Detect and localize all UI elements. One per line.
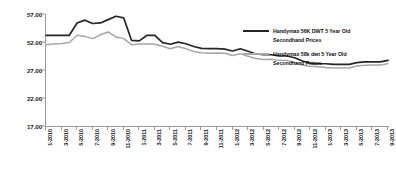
x-axis-tick-mark	[123, 127, 124, 130]
x-axis-tick-mark	[325, 127, 326, 130]
x-axis-tick-mark	[185, 127, 186, 130]
x-axis-tick-mark	[294, 127, 295, 130]
x-axis-tick-label: 1-2010	[47, 129, 53, 146]
x-axis-tick-mark	[92, 127, 93, 130]
x-axis-tick-mark	[107, 127, 108, 130]
x-axis-tick-mark	[387, 127, 388, 130]
x-axis-labels: 1-20103-20105-20107-20109-201011-20101-2…	[45, 127, 389, 170]
legend-label-line1: Handymax 58k dwt 5 Year Old	[273, 51, 347, 57]
x-axis-tick-mark	[309, 127, 310, 130]
x-axis-tick-label: 7-2011	[187, 129, 193, 146]
x-axis-tick-label: 3-2013	[343, 129, 349, 146]
x-axis-tick-mark	[340, 127, 341, 130]
legend-label-series-0: Handymax 56K DWT 5 Year Old Secondhand P…	[273, 27, 350, 44]
x-axis-tick-mark	[356, 127, 357, 130]
x-axis-tick-label: 9-2012	[296, 129, 302, 146]
x-axis-tick-label: 7-2013	[374, 129, 380, 146]
x-axis-tick-label: 11-2011	[218, 129, 224, 148]
x-axis-tick-mark	[169, 127, 170, 130]
x-axis-tick-label: 3-2011	[156, 129, 162, 146]
x-axis-tick-mark	[154, 127, 155, 130]
x-axis-tick-label: 1-2012	[234, 129, 240, 146]
y-axis-tick-label: 57.00	[27, 11, 42, 18]
legend-label-line1: Handymax 56K DWT 5 Year Old	[273, 28, 350, 34]
x-axis-tick-label: 9-2013	[389, 129, 395, 146]
x-axis-tick-label: 5-2012	[265, 129, 271, 146]
x-axis-tick-label: 11-2012	[312, 129, 318, 149]
x-axis-tick-label: 9-2011	[203, 129, 209, 146]
x-axis-tick-mark	[263, 127, 264, 130]
x-axis-tick-mark	[76, 127, 77, 130]
legend-line-icon-series-1	[243, 53, 269, 55]
legend-label-line2: Secondhand Prices	[273, 60, 321, 66]
x-axis-tick-mark	[247, 127, 248, 130]
chart-legend: Handymax 56K DWT 5 Year Old Secondhand P…	[243, 27, 395, 74]
x-axis-tick-mark	[232, 127, 233, 130]
x-axis-tick-mark	[278, 127, 279, 130]
y-axis-tick-label: 17.00	[27, 123, 42, 130]
x-axis-tick-label: 1-2013	[327, 129, 333, 146]
x-axis-tick-mark	[138, 127, 139, 130]
x-axis-tick-label: 9-2010	[110, 129, 116, 146]
legend-label-line2: Secondhand Prices	[273, 37, 321, 43]
legend-item: Handymax 56K DWT 5 Year Old Secondhand P…	[243, 27, 395, 44]
x-axis-tick-label: 1-2011	[141, 129, 147, 146]
x-axis-tick-label: 3-2010	[63, 129, 69, 146]
y-axis-tick-label: 22.00	[27, 95, 42, 102]
x-axis-tick-label: 5-2013	[358, 129, 364, 146]
x-axis-tick-mark	[216, 127, 217, 130]
legend-line-icon-series-0	[243, 30, 269, 32]
x-axis-tick-mark	[371, 127, 372, 130]
x-axis-tick-mark	[61, 127, 62, 130]
x-axis-tick-mark	[200, 127, 201, 130]
x-axis-tick-label: 11-2010	[125, 129, 131, 149]
x-axis-tick-label: 3-2012	[249, 129, 255, 146]
y-axis-tick-label: 52.00	[27, 39, 42, 46]
x-axis-tick-label: 5-2010	[78, 129, 84, 146]
x-axis-tick-label: 7-2012	[281, 129, 287, 146]
x-axis-tick-mark	[45, 127, 46, 130]
y-axis-labels: 57.0052.0027.0022.0017.00	[0, 0, 42, 170]
legend-item: Handymax 58k dwt 5 Year Old Secondhand P…	[243, 50, 395, 67]
y-axis-tick-label: 27.00	[27, 67, 42, 74]
x-axis-tick-label: 5-2011	[172, 129, 178, 146]
legend-label-series-1: Handymax 58k dwt 5 Year Old Secondhand P…	[273, 50, 347, 67]
x-axis-tick-label: 7-2010	[94, 129, 100, 146]
line-chart: 57.0052.0027.0022.0017.00 1-20103-20105-…	[0, 0, 396, 170]
